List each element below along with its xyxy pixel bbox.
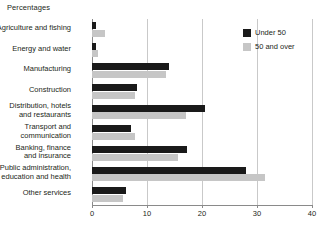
gridline bbox=[312, 19, 313, 205]
bar-under-50 bbox=[92, 105, 205, 112]
chart-category-row: Banking, financeand insurance bbox=[92, 143, 312, 164]
bar-under-50 bbox=[92, 125, 131, 132]
x-axis-tick-label: 40 bbox=[308, 209, 316, 218]
category-label: Energy and water bbox=[0, 45, 71, 54]
x-axis-tick-mark bbox=[92, 205, 93, 208]
bar-50-and-over bbox=[92, 92, 135, 99]
chart-title: Percentages bbox=[7, 3, 50, 12]
legend-label: Under 50 bbox=[255, 28, 286, 37]
bar-chart: Percentages Agriculture and fishingEnerg… bbox=[0, 0, 329, 230]
chart-category-row: Distribution, hotelsand restaurants bbox=[92, 102, 312, 123]
category-label: Manufacturing bbox=[0, 65, 71, 74]
bar-50-and-over bbox=[92, 133, 135, 140]
x-axis-tick-mark bbox=[312, 205, 313, 208]
chart-category-row: Construction bbox=[92, 81, 312, 102]
bar-50-and-over bbox=[92, 154, 178, 161]
bar-50-and-over bbox=[92, 30, 105, 37]
category-label-line: communication bbox=[0, 132, 71, 141]
category-label-line: and restaurants bbox=[0, 111, 71, 120]
chart-category-row: Transport andcommunication bbox=[92, 122, 312, 143]
category-label: Public administration,education and heal… bbox=[0, 164, 71, 181]
category-label: Other services bbox=[0, 189, 71, 198]
bar-50-and-over bbox=[92, 195, 123, 202]
x-axis-tick-label: 30 bbox=[253, 209, 261, 218]
bar-under-50 bbox=[92, 22, 96, 29]
bar-50-and-over bbox=[92, 71, 166, 78]
category-label-line: Construction bbox=[0, 86, 71, 95]
category-label-line: Agriculture and fishing bbox=[0, 24, 71, 33]
category-label-line: Manufacturing bbox=[0, 65, 71, 74]
category-label-line: Other services bbox=[0, 189, 71, 198]
category-label-line: and insurance bbox=[0, 152, 71, 161]
x-axis-tick-mark bbox=[202, 205, 203, 208]
x-axis-tick-label: 10 bbox=[143, 209, 151, 218]
bar-50-and-over bbox=[92, 112, 186, 119]
bar-under-50 bbox=[92, 167, 246, 174]
bar-under-50 bbox=[92, 146, 187, 153]
category-label: Transport andcommunication bbox=[0, 123, 71, 140]
category-label: Agriculture and fishing bbox=[0, 24, 71, 33]
chart-category-row: Public administration,education and heal… bbox=[92, 164, 312, 185]
category-label: Distribution, hotelsand restaurants bbox=[0, 102, 71, 119]
category-label: Banking, financeand insurance bbox=[0, 144, 71, 161]
category-label: Construction bbox=[0, 86, 71, 95]
legend-swatch bbox=[243, 29, 251, 37]
legend-label: 50 and over bbox=[255, 42, 295, 51]
bar-50-and-over bbox=[92, 50, 98, 57]
category-label-line: Energy and water bbox=[0, 45, 71, 54]
chart-category-row: Other services bbox=[92, 184, 312, 205]
bar-under-50 bbox=[92, 84, 137, 91]
category-label-line: education and health bbox=[0, 173, 71, 182]
bar-50-and-over bbox=[92, 174, 265, 181]
x-axis-tick-label: 20 bbox=[198, 209, 206, 218]
x-axis-tick-mark bbox=[147, 205, 148, 208]
bar-under-50 bbox=[92, 187, 126, 194]
chart-category-row: Manufacturing bbox=[92, 60, 312, 81]
bar-under-50 bbox=[92, 63, 169, 70]
x-axis-tick-mark bbox=[257, 205, 258, 208]
x-axis-tick-label: 0 bbox=[90, 209, 94, 218]
bar-under-50 bbox=[92, 43, 96, 50]
legend-swatch bbox=[243, 43, 251, 51]
